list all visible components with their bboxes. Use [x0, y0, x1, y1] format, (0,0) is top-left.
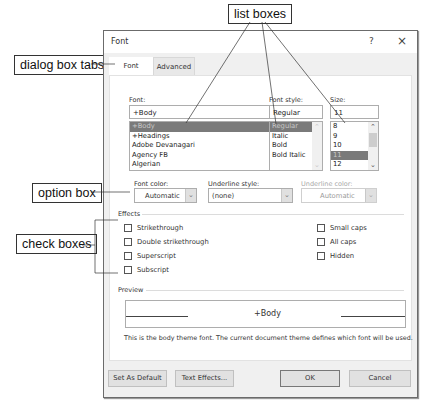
checkbox-icon[interactable]: [317, 224, 325, 232]
font-color-value: Automatic: [145, 192, 180, 200]
underline-color-value: Automatic: [320, 192, 355, 200]
checkbox-icon[interactable]: [317, 252, 325, 260]
close-icon[interactable]: ×: [397, 34, 407, 48]
dialog-title: Font: [111, 37, 128, 46]
font-label: Font:: [129, 96, 145, 104]
checkbox-icon[interactable]: [124, 224, 132, 232]
title-bar: Font ? ×: [104, 31, 417, 53]
font-dialog: Font ? × Font Advanced Font: +Body +Body…: [103, 30, 418, 398]
font-list-item[interactable]: Algerian: [130, 160, 284, 170]
preview-divider: [146, 290, 404, 291]
effects-divider: [142, 214, 404, 215]
font-list-item[interactable]: +Body: [130, 122, 284, 132]
scroll-down-icon[interactable]: ⌄: [368, 161, 378, 169]
cancel-button[interactable]: Cancel: [349, 370, 411, 387]
preview-label: Preview: [118, 286, 143, 294]
size-input[interactable]: 11: [330, 105, 379, 119]
checkbox-hidden[interactable]: Hidden: [317, 252, 354, 260]
preview-description: This is the body theme font. The current…: [124, 334, 413, 342]
checkbox-icon[interactable]: [317, 238, 325, 246]
scroll-thumb[interactable]: [369, 133, 377, 147]
tab-advanced[interactable]: Advanced: [153, 57, 195, 75]
font-color-dropdown[interactable]: Automatic ⌄: [134, 188, 197, 203]
scroll-down-icon[interactable]: ⌄: [312, 161, 322, 169]
font-list-item[interactable]: Agency FB: [130, 151, 284, 161]
underline-style-value: (none): [212, 192, 234, 200]
set-as-default-button[interactable]: Set As Default: [108, 370, 167, 387]
preview-baseline-left: [126, 316, 188, 317]
checkbox-subscript[interactable]: Subscript: [124, 266, 169, 274]
checkbox-icon[interactable]: [124, 252, 132, 260]
size-list-item[interactable]: 11: [331, 151, 368, 161]
preview-sample-text: +Body: [254, 309, 281, 318]
callout-dialog-box-tabs: dialog box tabs: [14, 55, 110, 75]
checkbox-strikethrough[interactable]: Strikethrough: [124, 224, 183, 232]
size-label: Size:: [330, 96, 346, 104]
font-color-label: Font color:: [134, 180, 168, 188]
font-tab-panel: Font: +Body +Body +Headings Adobe Devana…: [109, 75, 412, 361]
size-list-scrollbar[interactable]: ⌃ ⌄: [368, 122, 378, 170]
checkbox-small-caps[interactable]: Small caps: [317, 224, 367, 232]
preview-baseline-right: [341, 316, 405, 317]
font-style-scrollbar[interactable]: ⌃ ⌄: [312, 122, 322, 170]
chevron-down-icon[interactable]: ⌄: [365, 189, 376, 202]
chevron-down-icon[interactable]: ⌄: [185, 189, 196, 202]
callout-option-box: option box: [32, 183, 102, 203]
callout-check-boxes: check boxes: [16, 234, 97, 254]
underline-color-label: Underline color:: [301, 180, 353, 188]
font-style-input[interactable]: Regular: [269, 105, 323, 119]
checkbox-all-caps[interactable]: All caps: [317, 238, 356, 246]
checkbox-icon[interactable]: [124, 266, 132, 274]
scroll-up-icon[interactable]: ⌃: [368, 123, 378, 131]
tab-font[interactable]: Font: [109, 57, 153, 77]
font-list-box[interactable]: +Body +Headings Adobe Devanagari Agency …: [129, 121, 285, 171]
help-icon[interactable]: ?: [369, 36, 374, 46]
checkbox-superscript[interactable]: Superscript: [124, 252, 176, 260]
effects-label: Effects: [118, 210, 140, 218]
font-list-item[interactable]: +Headings: [130, 132, 284, 142]
ok-button[interactable]: OK: [280, 370, 340, 387]
underline-style-dropdown[interactable]: (none) ⌄: [208, 188, 293, 203]
font-list-item[interactable]: Adobe Devanagari: [130, 141, 284, 151]
chevron-down-icon[interactable]: ⌄: [281, 189, 292, 202]
font-input[interactable]: +Body: [129, 105, 285, 119]
size-list-box[interactable]: 8 9 10 11 12 ⌃ ⌄: [330, 121, 379, 171]
checkbox-double-strikethrough[interactable]: Double strikethrough: [124, 238, 209, 246]
underline-color-dropdown[interactable]: Automatic ⌄: [301, 188, 377, 203]
scroll-up-icon[interactable]: ⌃: [312, 123, 322, 131]
text-effects-button[interactable]: Text Effects...: [175, 370, 234, 387]
font-style-list-box[interactable]: Regular Italic Bold Bold Italic ⌃ ⌄: [269, 121, 323, 171]
preview-box: +Body: [125, 300, 406, 328]
font-style-label: Font style:: [269, 96, 303, 104]
callout-list-boxes: list boxes: [228, 4, 292, 24]
checkbox-icon[interactable]: [124, 238, 132, 246]
underline-style-label: Underline style:: [208, 180, 259, 188]
